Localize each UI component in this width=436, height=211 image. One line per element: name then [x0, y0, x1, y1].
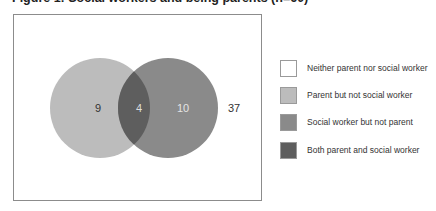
- legend-swatch-white: [280, 60, 297, 77]
- count-parent-only: 9: [95, 102, 101, 114]
- count-neither: 37: [228, 102, 240, 114]
- legend-label: Neither parent nor social worker: [307, 63, 427, 73]
- legend-item-neither: Neither parent nor social worker: [280, 59, 427, 77]
- legend-swatch-medium-gray: [280, 114, 297, 131]
- legend-item-both: Both parent and social worker: [280, 141, 419, 159]
- legend-label: Both parent and social worker: [307, 145, 419, 155]
- count-both: 4: [136, 102, 142, 114]
- legend-item-social-worker-only: Social worker but not parent: [280, 113, 413, 131]
- legend-swatch-dark-gray: [280, 142, 297, 159]
- legend-swatch-light-gray: [280, 87, 297, 104]
- legend-item-parent-only: Parent but not social worker: [280, 86, 412, 104]
- count-social-worker-only: 10: [177, 102, 189, 114]
- legend-label: Parent but not social worker: [307, 90, 412, 100]
- legend-label: Social worker but not parent: [307, 117, 413, 127]
- venn-diagram: [0, 0, 436, 211]
